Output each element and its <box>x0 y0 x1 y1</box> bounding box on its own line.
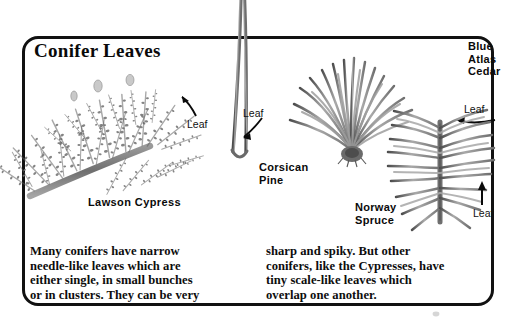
label-blue-atlas-cedar: Blue Atlas Cedar <box>468 40 501 78</box>
label-corsican-pine: Corsican Pine <box>259 161 308 186</box>
body-text-column-right: sharp and spiky. But other conifers, lik… <box>266 244 498 302</box>
body-text-column-left: Many conifers have narrow needle-like le… <box>30 244 255 302</box>
illustration-page: Conifer Leaves Lawson Cypress Corsican P… <box>0 0 520 322</box>
callout-leaf-lawson-cypress: Leaf <box>187 118 207 130</box>
callout-leaf-blue-atlas-cedar: Leaf <box>464 103 484 115</box>
callout-leaf-corsican-pine: Leaf <box>243 107 263 119</box>
page-smudge <box>433 312 440 317</box>
callout-leaf-norway-spruce: Leaf <box>473 207 493 219</box>
label-lawson-cypress: Lawson Cypress <box>88 196 181 209</box>
label-norway-spruce: Norway Spruce <box>355 201 397 226</box>
page-title: Conifer Leaves <box>34 40 161 62</box>
